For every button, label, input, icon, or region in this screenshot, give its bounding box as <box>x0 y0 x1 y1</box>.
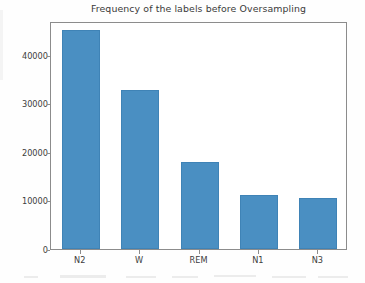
scan-artifact <box>0 10 3 80</box>
scan-artifact <box>318 276 348 278</box>
y-tick-mark <box>47 153 51 154</box>
bar-REM <box>181 162 219 249</box>
y-tick-label: 0 <box>0 245 48 255</box>
chart-figure: Frequency of the labels before Oversampl… <box>0 0 365 283</box>
scan-artifact <box>126 276 156 278</box>
x-tick-mark <box>258 250 259 254</box>
bar-W <box>121 90 159 249</box>
plot-frame <box>50 22 347 250</box>
y-tick-mark <box>47 201 51 202</box>
x-tick-label-REM: REM <box>169 255 229 265</box>
y-tick-label: 10000 <box>0 196 48 206</box>
scan-artifact <box>214 275 256 277</box>
scan-artifact <box>24 276 38 278</box>
bar-N1 <box>240 195 278 249</box>
y-tick-label: 20000 <box>0 148 48 158</box>
bar-N2 <box>62 30 100 249</box>
scan-artifact <box>60 275 106 278</box>
x-tick-label-N2: N2 <box>50 255 110 265</box>
x-tick-mark <box>139 250 140 254</box>
plot-area <box>51 23 346 249</box>
x-tick-label-W: W <box>109 255 169 265</box>
y-tick-label: 30000 <box>0 99 48 109</box>
y-tick-mark <box>47 56 51 57</box>
y-tick-mark <box>47 104 51 105</box>
y-tick-label: 40000 <box>0 51 48 61</box>
chart-title: Frequency of the labels before Oversampl… <box>50 3 347 14</box>
x-tick-label-N3: N3 <box>287 255 347 265</box>
x-tick-mark <box>199 250 200 254</box>
y-tick-mark <box>47 250 51 251</box>
x-tick-mark <box>80 250 81 254</box>
x-tick-mark <box>317 250 318 254</box>
scan-artifact <box>272 276 306 278</box>
scan-artifact <box>172 276 198 278</box>
bar-N3 <box>299 198 337 249</box>
x-tick-label-N1: N1 <box>228 255 288 265</box>
